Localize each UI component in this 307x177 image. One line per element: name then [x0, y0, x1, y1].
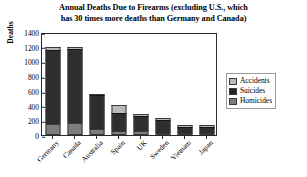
bar-group[interactable]	[68, 47, 83, 135]
y-axis-label: Deaths	[6, 3, 15, 63]
bar-segment-homicides[interactable]	[178, 133, 193, 135]
bar-segment-suicides[interactable]	[134, 116, 149, 131]
bar-segment-suicides[interactable]	[68, 49, 83, 123]
bar-segment-homicides[interactable]	[156, 133, 171, 135]
y-axis-tick-label: 1000	[24, 60, 42, 67]
legend-item[interactable]: Homicides	[229, 96, 272, 106]
bar-segment-homicides[interactable]	[68, 123, 83, 136]
y-axis-tick-label: 1200	[24, 45, 42, 52]
y-axis-tick: 200	[28, 119, 42, 126]
chart-title-line-2: has 30 times more deaths than Germany an…	[0, 14, 307, 25]
legend-item[interactable]: Suicides	[229, 86, 272, 96]
firearms-deaths-chart: Annual Deaths Due to Firearms (excluding…	[0, 0, 307, 177]
chart-title: Annual Deaths Due to Firearms (excluding…	[0, 3, 307, 24]
legend-label: Suicides	[240, 87, 265, 94]
y-axis-tick-label: 800	[28, 74, 42, 81]
x-axis-tick-text: Spain	[109, 139, 126, 156]
y-axis-tick-label: 0	[35, 133, 42, 140]
plot-area: 0200400600800100012001400	[41, 33, 217, 136]
bar-segment-homicides[interactable]	[112, 131, 127, 135]
bar-segment-suicides[interactable]	[112, 113, 127, 131]
bar-group[interactable]	[112, 105, 127, 135]
x-axis-tick-text: Japan	[197, 139, 214, 156]
bar-group[interactable]	[90, 94, 105, 135]
bar-group[interactable]	[156, 118, 171, 135]
y-axis-tick: 0	[35, 133, 42, 140]
bar-group[interactable]	[178, 125, 193, 135]
bar-group[interactable]	[46, 47, 61, 135]
legend-swatch-icon	[229, 88, 237, 95]
y-axis-tick: 1400	[24, 30, 42, 37]
y-axis-tick-label: 600	[28, 89, 42, 96]
legend-swatch-icon	[229, 98, 237, 105]
y-axis-tick: 1000	[24, 60, 42, 67]
bar-segment-homicides[interactable]	[46, 124, 61, 135]
bars-layer	[42, 34, 216, 135]
y-axis-tick-label: 1400	[24, 30, 42, 37]
bar-segment-suicides[interactable]	[90, 95, 105, 128]
bar-segment-homicides[interactable]	[200, 133, 215, 135]
y-axis-tick: 400	[28, 104, 42, 111]
legend-swatch-icon	[229, 78, 237, 85]
y-axis-tick-label: 400	[28, 104, 42, 111]
y-axis-tick: 1200	[24, 45, 42, 52]
bar-segment-homicides[interactable]	[134, 131, 149, 135]
bar-segment-suicides[interactable]	[46, 50, 61, 124]
legend-label: Homicides	[240, 97, 272, 104]
y-axis-tick: 600	[28, 89, 42, 96]
bar-group[interactable]	[200, 125, 215, 135]
x-axis-tick-text: UK	[136, 139, 149, 152]
y-axis-tick-label: 200	[28, 119, 42, 126]
bar-segment-accidents[interactable]	[112, 105, 127, 112]
bar-segment-homicides[interactable]	[90, 129, 105, 135]
chart-title-line-1: Annual Deaths Due to Firearms (excluding…	[0, 3, 307, 14]
legend-label: Accidents	[240, 77, 270, 84]
y-axis-tick-mark	[42, 137, 45, 138]
y-axis-tick: 800	[28, 74, 42, 81]
bar-group[interactable]	[134, 114, 149, 135]
chart-legend: AccidentsSuicidesHomicides	[226, 73, 276, 109]
legend-item[interactable]: Accidents	[229, 76, 272, 86]
bar-segment-suicides[interactable]	[156, 120, 171, 133]
